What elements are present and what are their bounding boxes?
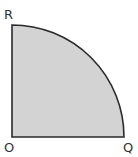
quarter-circle-sector — [12, 25, 124, 137]
sector-diagram: R O Q — [0, 0, 138, 157]
label-r: R — [4, 7, 13, 22]
label-q: Q — [123, 140, 133, 155]
label-o: O — [4, 140, 14, 155]
